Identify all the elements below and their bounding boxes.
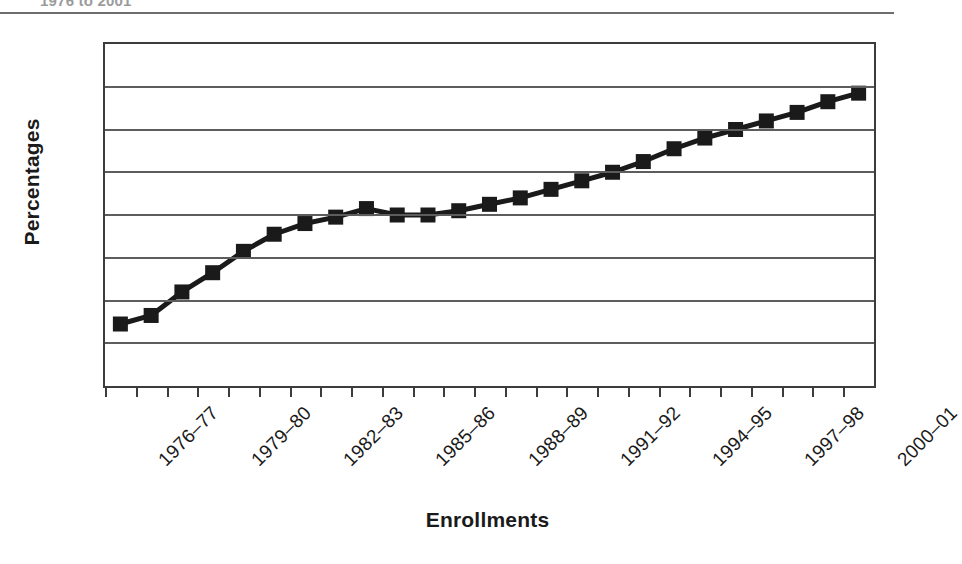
gridline-10: [105, 257, 874, 259]
gridline-12: [105, 171, 874, 173]
x-tick: [659, 386, 661, 397]
data-point-marker: [697, 131, 712, 146]
x-tick: [320, 386, 322, 397]
x-tick: [536, 386, 538, 397]
x-tick: [197, 386, 199, 397]
data-point-marker: [851, 86, 866, 101]
data-point-marker: [267, 227, 282, 242]
x-tick-label: 1991–92: [616, 402, 685, 471]
x-axis-title: Enrollments: [103, 508, 872, 532]
x-tick-label: 1988–89: [524, 402, 593, 471]
x-tick: [136, 386, 138, 397]
data-point-marker: [144, 308, 159, 323]
data-point-marker: [667, 141, 682, 156]
plot-area: 1514131211109871976–771979–801982–831985…: [103, 42, 876, 388]
data-point-marker: [790, 105, 805, 120]
data-point-marker: [513, 190, 528, 205]
x-tick: [720, 386, 722, 397]
data-point-marker: [759, 113, 774, 128]
x-tick: [351, 386, 353, 397]
data-point-marker: [636, 154, 651, 169]
gridline-11: [105, 214, 874, 216]
data-point-marker: [820, 94, 835, 109]
x-tick-label: 2000–01: [893, 402, 962, 471]
x-tick: [382, 386, 384, 397]
x-tick: [290, 386, 292, 397]
x-tick-label: 1979–80: [247, 402, 316, 471]
x-tick: [628, 386, 630, 397]
x-tick-label: 1982–83: [339, 402, 408, 471]
data-point-marker: [113, 317, 128, 332]
data-point-marker: [174, 284, 189, 299]
x-tick: [413, 386, 415, 397]
x-tick: [167, 386, 169, 397]
data-point-marker: [328, 210, 343, 225]
x-tick: [228, 386, 230, 397]
x-tick: [689, 386, 691, 397]
x-tick-label: 1976–77: [154, 402, 223, 471]
x-tick: [566, 386, 568, 397]
x-tick: [443, 386, 445, 397]
gridline-14: [105, 86, 874, 88]
data-point-marker: [205, 265, 220, 280]
gridline-13: [105, 129, 874, 131]
x-tick: [843, 386, 845, 397]
x-tick-label: 1997–98: [800, 402, 869, 471]
gridline-9: [105, 300, 874, 302]
data-point-marker: [297, 216, 312, 231]
x-tick-label: 1985–86: [431, 402, 500, 471]
x-tick-label: 1994–95: [708, 402, 777, 471]
x-tick: [259, 386, 261, 397]
data-point-marker: [574, 173, 589, 188]
x-tick: [782, 386, 784, 397]
x-tick: [751, 386, 753, 397]
data-point-marker: [482, 197, 497, 212]
y-axis-title: Percentages: [20, 102, 44, 262]
x-tick: [505, 386, 507, 397]
data-point-marker: [544, 182, 559, 197]
x-tick: [474, 386, 476, 397]
x-tick: [812, 386, 814, 397]
x-tick: [105, 386, 107, 397]
gridline-8: [105, 342, 874, 344]
x-tick: [597, 386, 599, 397]
